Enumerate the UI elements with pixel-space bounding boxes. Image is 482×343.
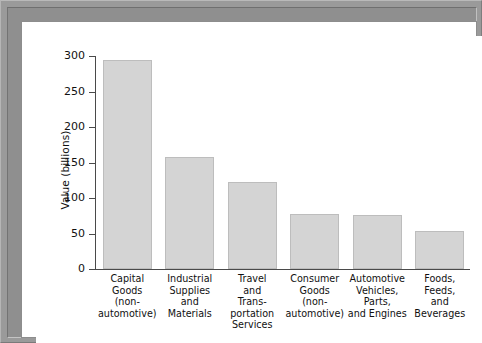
x-axis-line	[95, 269, 470, 270]
y-axis-tick-label: 50	[48, 228, 85, 239]
bar	[353, 215, 402, 269]
bar	[103, 60, 152, 269]
y-axis-tick-label: 200	[48, 121, 85, 132]
x-axis-category-label: Foods, Feeds, and Beverages	[409, 273, 472, 319]
x-axis-category-label: Automotive Vehicles, Parts, and Engines	[346, 273, 409, 319]
y-axis-tick	[89, 163, 96, 164]
y-axis-tick-label: 250	[48, 86, 85, 97]
bar	[228, 182, 277, 269]
picture-frame-bevel: Value (billions) 050100150200250300 Capi…	[7, 7, 477, 338]
bar	[165, 157, 214, 269]
picture-frame-inner: Value (billions) 050100150200250300 Capi…	[21, 21, 477, 338]
x-axis-category-label: Industrial Supplies and Materials	[159, 273, 222, 319]
y-axis-tick-label: 300	[48, 50, 85, 61]
picture-frame-outer: Value (billions) 050100150200250300 Capi…	[0, 0, 482, 343]
y-axis-tick	[89, 198, 96, 199]
y-axis-tick	[89, 234, 96, 235]
y-axis-tick	[89, 269, 96, 270]
y-axis-tick-label: 150	[48, 157, 85, 168]
y-axis-tick-label: 100	[48, 192, 85, 203]
y-axis-tick	[89, 127, 96, 128]
x-axis-category-label: Capital Goods (non- automotive)	[96, 273, 159, 319]
bar	[415, 231, 464, 269]
y-axis-tick-label: 0	[48, 263, 85, 274]
x-axis-category-label: Consumer Goods (non- automotive)	[284, 273, 347, 319]
bar	[290, 214, 339, 269]
x-axis-category-label: Travel and Trans- portation Services	[221, 273, 284, 331]
y-axis-tick	[89, 56, 96, 57]
bar-chart: Value (billions) 050100150200250300 Capi…	[36, 36, 482, 343]
y-axis-tick	[89, 92, 96, 93]
